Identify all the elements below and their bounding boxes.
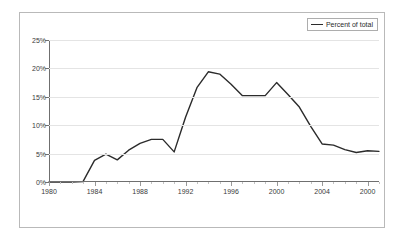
series-percent-of-total	[49, 40, 379, 182]
legend-line-swatch-icon	[311, 24, 323, 25]
y-axis-tick-label: 10%	[32, 122, 46, 129]
y-axis-tick	[45, 97, 49, 98]
plot-area	[49, 40, 379, 182]
gridline-y	[49, 125, 379, 126]
x-axis-minor-tick	[265, 182, 266, 184]
y-axis-tick	[45, 154, 49, 155]
x-axis-labels: 19801984198819921996200020042000	[49, 188, 379, 200]
x-axis-minor-tick	[72, 182, 73, 184]
y-axis-line	[49, 40, 50, 182]
gridline-y	[49, 154, 379, 155]
y-axis-tick	[45, 68, 49, 69]
x-axis-minor-tick	[151, 182, 152, 184]
x-axis-minor-tick	[208, 182, 209, 184]
y-axis-tick-label: 20%	[32, 65, 46, 72]
x-axis-minor-tick	[83, 182, 84, 184]
x-axis-minor-tick	[311, 182, 312, 184]
x-axis-minor-tick	[356, 182, 357, 184]
x-axis-tick	[95, 182, 96, 186]
gridline-y	[49, 97, 379, 98]
x-axis-minor-tick	[163, 182, 164, 184]
x-axis-tick-label: 2004	[314, 188, 330, 195]
x-axis-minor-tick	[345, 182, 346, 184]
y-axis-tick	[45, 40, 49, 41]
x-axis-minor-tick	[254, 182, 255, 184]
x-axis-tick-label: 2000	[360, 188, 376, 195]
x-axis-minor-tick	[379, 182, 380, 184]
x-axis-minor-tick	[197, 182, 198, 184]
x-axis-minor-tick	[333, 182, 334, 184]
x-axis-minor-tick	[220, 182, 221, 184]
x-axis-tick-label: 1984	[87, 188, 103, 195]
y-axis-tick-label: 15%	[32, 93, 46, 100]
chart-frame: 0%5%10%15%20%25% 19801984198819921996200…	[19, 12, 385, 228]
x-axis-tick	[49, 182, 50, 186]
x-axis-tick-label: 1992	[178, 188, 194, 195]
x-axis-tick-label: 1980	[41, 188, 57, 195]
x-axis-minor-tick	[129, 182, 130, 184]
x-axis-minor-tick	[299, 182, 300, 184]
x-axis-tick	[140, 182, 141, 186]
x-axis-minor-tick	[60, 182, 61, 184]
chart-legend: Percent of total	[307, 18, 378, 31]
x-axis-minor-tick	[242, 182, 243, 184]
x-axis-tick	[277, 182, 278, 186]
x-axis-minor-tick	[288, 182, 289, 184]
x-axis-minor-tick	[117, 182, 118, 184]
x-axis-tick-label: 1996	[223, 188, 239, 195]
y-axis-tick	[45, 125, 49, 126]
series-line	[49, 72, 379, 182]
x-axis-tick	[322, 182, 323, 186]
x-axis-tick	[231, 182, 232, 186]
y-axis-tick-label: 25%	[32, 37, 46, 44]
gridline-y	[49, 68, 379, 69]
x-axis-tick	[368, 182, 369, 186]
x-axis-minor-tick	[174, 182, 175, 184]
x-axis-tick-label: 1988	[132, 188, 148, 195]
x-axis-tick	[186, 182, 187, 186]
x-axis-tick-label: 2000	[269, 188, 285, 195]
x-axis-line	[49, 181, 379, 182]
x-axis-minor-tick	[106, 182, 107, 184]
gridline-y	[49, 40, 379, 41]
chart-screenshot: 0%5%10%15%20%25% 19801984198819921996200…	[0, 0, 407, 243]
legend-label: Percent of total	[326, 21, 373, 28]
y-axis-labels: 0%5%10%15%20%25%	[20, 40, 46, 182]
